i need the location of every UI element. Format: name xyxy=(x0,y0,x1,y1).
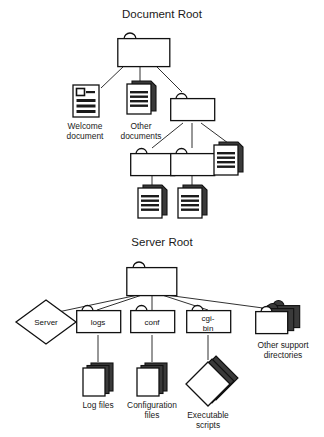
configuration-files-label-line1: Configuration xyxy=(127,400,177,410)
server-root-title: Server Root xyxy=(131,236,193,248)
server-root-section: Server Root Server logs xyxy=(16,236,309,430)
welcome-document-label-line2: document xyxy=(67,131,104,141)
other-support-directories-icon[interactable] xyxy=(256,301,300,334)
executable-scripts-label-line1: Executable xyxy=(187,410,229,420)
other-documents-label-line1: Other xyxy=(131,121,152,131)
doc-subfolder-left-icon[interactable] xyxy=(131,149,175,176)
executable-scripts-icon[interactable] xyxy=(186,356,238,406)
doc-subfolder-middle-icon[interactable] xyxy=(171,94,215,121)
log-files-label: Log files xyxy=(82,400,113,410)
conf-folder-label: conf xyxy=(144,318,160,327)
doc-bottom-left-document-icon[interactable] xyxy=(138,185,167,218)
doc-right-document-icon[interactable] xyxy=(214,142,243,175)
logs-folder-label: logs xyxy=(91,318,106,327)
doc-root-folder-icon[interactable] xyxy=(118,33,170,67)
other-support-label-line1: Other support xyxy=(257,340,309,350)
other-documents-label-line2: documents xyxy=(121,131,162,141)
configuration-files-label-line2: files xyxy=(145,410,160,420)
other-support-label-line2: directories xyxy=(264,350,303,360)
cgi-bin-folder-label-line1: cgi- xyxy=(202,314,215,323)
server-binary-label: Server xyxy=(34,318,58,327)
welcome-document-label-line1: Welcome xyxy=(68,121,103,131)
document-root-title: Document Root xyxy=(122,8,203,20)
cgi-bin-folder-label-line2: bin xyxy=(203,324,214,333)
server-root-folder-icon[interactable] xyxy=(127,262,177,296)
other-documents-icon[interactable] xyxy=(127,81,156,114)
configuration-files-icon[interactable] xyxy=(137,363,167,396)
doc-bottom-right-document-icon[interactable] xyxy=(178,185,207,218)
welcome-document-icon[interactable] xyxy=(73,85,99,117)
log-files-icon[interactable] xyxy=(83,363,113,396)
directory-structure-diagram: Document Root Welcome document xyxy=(0,0,324,437)
doc-subfolder-right-icon[interactable] xyxy=(171,149,215,176)
document-root-section: Document Root Welcome document xyxy=(67,8,243,218)
executable-scripts-label-line2: scripts xyxy=(196,420,220,430)
